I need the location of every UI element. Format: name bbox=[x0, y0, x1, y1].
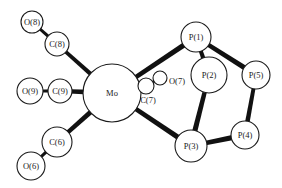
atom-o9: O(9) bbox=[17, 78, 43, 104]
molecular-structure-diagram: O(8)C(8)O(9)C(9)MoC(7)O(7)C(6)O(6)P(1)P(… bbox=[0, 0, 282, 188]
atom-label: C(9) bbox=[52, 86, 68, 96]
atom-circle bbox=[153, 71, 167, 85]
atom-p1: P(1) bbox=[181, 22, 211, 52]
atom-o7: O(7) bbox=[153, 71, 185, 86]
atom-p2: P(2) bbox=[191, 57, 227, 93]
atom-label: C(8) bbox=[49, 39, 65, 49]
atom-label: P(2) bbox=[202, 70, 217, 80]
atom-p4: P(4) bbox=[231, 121, 259, 149]
atom-c9: C(9) bbox=[48, 79, 72, 103]
atom-c8: C(8) bbox=[45, 32, 69, 56]
atom-label: P(3) bbox=[184, 141, 199, 151]
atom-label: C(7) bbox=[140, 95, 156, 105]
atom-label: O(9) bbox=[22, 86, 38, 96]
atom-label: Mo bbox=[106, 88, 118, 98]
atom-circle bbox=[138, 78, 154, 94]
atom-o6: O(6) bbox=[17, 152, 45, 180]
atoms-layer: O(8)C(8)O(9)C(9)MoC(7)O(7)C(6)O(6)P(1)P(… bbox=[17, 11, 270, 180]
atom-c7: C(7) bbox=[138, 78, 156, 105]
atom-label: O(8) bbox=[24, 17, 40, 27]
atom-label: C(6) bbox=[49, 137, 65, 147]
atom-mo: Mo bbox=[83, 64, 141, 122]
atom-o8: O(8) bbox=[21, 11, 43, 33]
atom-label: P(4) bbox=[238, 130, 253, 140]
atom-label: P(1) bbox=[189, 32, 204, 42]
atom-label: P(5) bbox=[249, 70, 264, 80]
atom-label: O(7) bbox=[169, 76, 185, 86]
atom-p3: P(3) bbox=[175, 130, 207, 162]
atom-label: O(6) bbox=[23, 161, 39, 171]
atom-c6: C(6) bbox=[42, 127, 72, 157]
atom-p5: P(5) bbox=[242, 61, 270, 89]
